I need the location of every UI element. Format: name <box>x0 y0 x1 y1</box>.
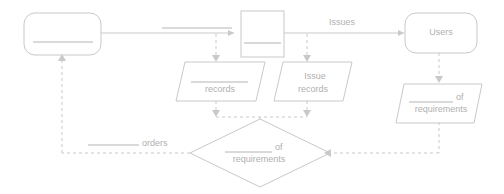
node-datastore-issue-records-shape[interactable] <box>274 62 352 101</box>
edge-users-to-requirements <box>435 53 443 83</box>
node-datastore-requirements[interactable]: of requirements <box>396 84 482 123</box>
edge-process-to-records <box>212 34 220 62</box>
edge-label-issues: Issues <box>329 17 356 27</box>
node-process-box-shape[interactable] <box>241 11 284 57</box>
node-datastore-issue-records-label-line1: Issue <box>304 71 326 81</box>
node-datastore-records-label: records <box>205 84 236 94</box>
node-external-entity-left[interactable] <box>24 13 101 55</box>
node-decision-requirements-shape[interactable] <box>190 119 330 187</box>
node-datastore-issue-records-label-line2: records <box>298 84 329 94</box>
edge-process-to-issue-records-arrowhead <box>303 55 311 62</box>
edge-process-to-issue-records <box>303 34 311 62</box>
edge-decision-to-entity: orders <box>58 54 190 153</box>
diagram-canvas: Issues <box>0 0 504 194</box>
node-decision-requirements-label-line2: requirements <box>233 154 286 164</box>
node-datastore-issue-records[interactable]: Issue records <box>274 62 352 101</box>
node-datastore-requirements-label-line1: of <box>456 92 464 102</box>
node-process-box[interactable] <box>241 11 284 57</box>
edge-records-to-decision <box>212 101 220 117</box>
edge-records-to-decision-arrowhead <box>212 110 220 117</box>
node-datastore-requirements-label-line2: requirements <box>415 104 468 114</box>
node-external-entity-users-label: Users <box>429 27 453 37</box>
edge-process-to-records-arrowhead <box>212 55 220 62</box>
edge-process-to-users: Issues <box>284 17 404 36</box>
node-decision-requirements-label-line1: of <box>275 142 283 152</box>
edge-requirements-to-decision <box>324 122 439 157</box>
edge-label-orders: orders <box>142 138 168 148</box>
edge-entity-to-process <box>101 28 234 36</box>
node-external-entity-left-shape[interactable] <box>24 13 101 55</box>
flowchart-svg: Issues <box>0 0 504 194</box>
edge-users-to-requirements-arrowhead <box>435 76 443 83</box>
node-external-entity-users[interactable]: Users <box>405 13 477 53</box>
node-datastore-records[interactable]: records <box>176 62 265 101</box>
edge-entity-to-process-arrowhead <box>228 30 234 36</box>
edge-issue-records-to-decision-arrowhead <box>303 110 311 117</box>
edge-issue-records-to-decision <box>303 101 311 117</box>
edge-process-to-users-arrowhead <box>398 30 404 36</box>
node-decision-requirements[interactable]: of requirements <box>190 119 330 187</box>
